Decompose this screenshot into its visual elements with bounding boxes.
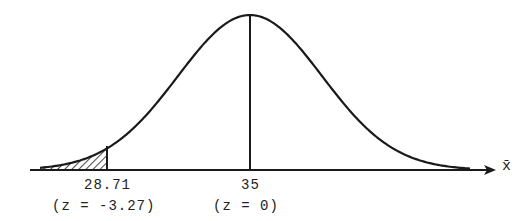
mean-z-label: (z = 0): [213, 198, 279, 214]
mean-label: 35: [241, 177, 260, 193]
axis-label: x̄: [502, 158, 512, 175]
normal-curve-figure: [0, 0, 530, 221]
cutoff-label: 28.71: [84, 177, 131, 193]
cutoff-z-label: (z = -3.27): [52, 198, 155, 214]
bell-curve: [40, 15, 470, 169]
